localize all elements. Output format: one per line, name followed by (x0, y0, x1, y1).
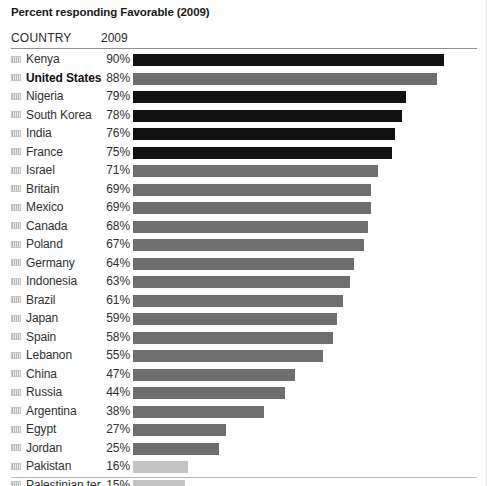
flag-icon (11, 185, 21, 192)
value-label: 38% (88, 404, 130, 418)
table-row: France75% (0, 144, 487, 163)
country-label: India (26, 126, 52, 140)
table-row: Nigeria79% (0, 88, 487, 107)
table-row: Brazil61% (0, 292, 487, 311)
value-label: 59% (88, 311, 130, 325)
value-label: 69% (88, 182, 130, 196)
bar-track (133, 147, 478, 159)
table-row: Japan59% (0, 310, 487, 329)
bar-track (133, 350, 478, 362)
flag-icon (11, 56, 21, 63)
bar (133, 424, 226, 436)
bar-chart-rows: Kenya90%United States88%Nigeria79%South … (0, 51, 487, 486)
column-header-country: COUNTRY (11, 31, 72, 45)
bar-track (133, 443, 478, 455)
table-row: Jordan25% (0, 440, 487, 459)
flag-icon (11, 130, 21, 137)
flag-icon (11, 278, 21, 285)
flag-icon (11, 93, 21, 100)
bar (133, 54, 444, 66)
bar-track (133, 239, 478, 251)
value-label: 58% (88, 330, 130, 344)
flag-icon (11, 370, 21, 377)
bar-track (133, 128, 478, 140)
table-row: Lebanon55% (0, 347, 487, 366)
country-label: Jordan (26, 441, 62, 455)
column-header-year: 2009 (101, 31, 128, 45)
bar-track (133, 480, 478, 486)
table-row: Russia44% (0, 384, 487, 403)
value-label: 16% (88, 459, 130, 473)
value-label: 15% (88, 478, 130, 486)
flag-icon (11, 444, 21, 451)
country-label: Pakistan (26, 459, 71, 473)
bar (133, 91, 406, 103)
flag-icon (11, 389, 21, 396)
country-label: Brazil (26, 293, 55, 307)
bar (133, 369, 295, 381)
bar-track (133, 295, 478, 307)
value-label: 67% (88, 237, 130, 251)
flag-icon (11, 296, 21, 303)
bar (133, 258, 354, 270)
country-label: Indonesia (26, 274, 77, 288)
country-label: Israel (26, 163, 55, 177)
country-label: Poland (26, 237, 63, 251)
flag-icon (11, 241, 21, 248)
bar-track (133, 424, 478, 436)
country-label: Russia (26, 385, 62, 399)
value-label: 64% (88, 256, 130, 270)
table-row: United States88% (0, 70, 487, 89)
country-label: Argentina (26, 404, 76, 418)
bar-track (133, 54, 478, 66)
country-label: China (26, 367, 57, 381)
bar (133, 387, 285, 399)
value-label: 69% (88, 200, 130, 214)
bar (133, 147, 392, 159)
flag-icon (11, 407, 21, 414)
table-row: Pakistan16% (0, 458, 487, 477)
bar-track (133, 184, 478, 196)
country-label: Egypt (26, 422, 56, 436)
country-label: Spain (26, 330, 56, 344)
bar-track (133, 221, 478, 233)
bar (133, 406, 264, 418)
country-label: Canada (26, 219, 67, 233)
country-label: Japan (26, 311, 58, 325)
table-row: Poland67% (0, 236, 487, 255)
flag-icon (11, 481, 21, 486)
value-label: 55% (88, 348, 130, 362)
bar (133, 350, 323, 362)
value-label: 88% (88, 71, 130, 85)
value-label: 63% (88, 274, 130, 288)
table-row: Kenya90% (0, 51, 487, 70)
flag-icon (11, 333, 21, 340)
table-row: Egypt27% (0, 421, 487, 440)
bar-track (133, 202, 478, 214)
flag-icon (11, 204, 21, 211)
bar-track (133, 313, 478, 325)
flag-icon (11, 148, 21, 155)
bar-track (133, 369, 478, 381)
value-label: 90% (88, 52, 130, 66)
table-row: Argentina38% (0, 403, 487, 422)
bar (133, 128, 395, 140)
table-row: Germany64% (0, 255, 487, 274)
bar (133, 295, 343, 307)
country-label: Mexico (26, 200, 63, 214)
bottom-divider (11, 477, 477, 478)
flag-icon (11, 74, 21, 81)
page-title: Percent responding Favorable (2009) (11, 6, 209, 18)
value-label: 61% (88, 293, 130, 307)
country-label: Lebanon (26, 348, 72, 362)
bar-track (133, 461, 478, 473)
country-label: Germany (26, 256, 75, 270)
table-row: Canada68% (0, 218, 487, 237)
table-row: Britain69% (0, 181, 487, 200)
bar (133, 480, 185, 486)
country-label: France (26, 145, 63, 159)
flag-icon (11, 315, 21, 322)
value-label: 79% (88, 89, 130, 103)
value-label: 78% (88, 108, 130, 122)
value-label: 47% (88, 367, 130, 381)
